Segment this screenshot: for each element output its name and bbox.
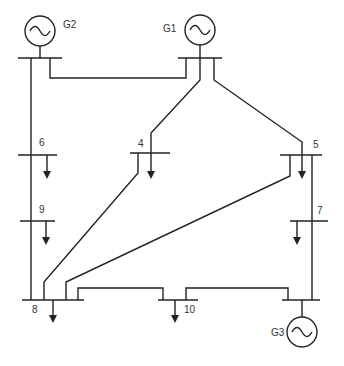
label-bus-7: 7 (317, 206, 323, 216)
label-g3: G3 (271, 328, 284, 338)
load-arrow-icon (147, 171, 155, 179)
load-arrow-icon (293, 237, 301, 245)
load-arrow-icon (298, 171, 306, 179)
line-bus4-bus8 (44, 153, 138, 300)
load-arrow-icon (42, 237, 50, 245)
load-arrow-icon (49, 315, 57, 323)
generator-g3 (287, 300, 317, 347)
label-bus-8: 8 (32, 305, 38, 315)
label-bus-5: 5 (313, 140, 319, 150)
one-line-diagram (0, 0, 344, 366)
label-bus-6: 6 (39, 138, 45, 148)
sine-wave-icon (292, 328, 312, 337)
label-bus-4: 4 (138, 139, 144, 149)
label-bus-9: 9 (39, 205, 45, 215)
line-g1-bus5 (214, 58, 302, 155)
sine-wave-icon (190, 26, 210, 35)
label-bus-10: 10 (184, 305, 195, 315)
label-g2: G2 (63, 20, 76, 30)
power-system-diagram: G2 G1 G3 6 4 5 9 7 8 10 (0, 0, 344, 366)
line-g1-bus4 (151, 58, 200, 153)
line-bus8-bus10 (78, 288, 163, 300)
label-g1: G1 (163, 24, 176, 34)
sine-wave-icon (30, 27, 50, 36)
load-arrow-icon (171, 315, 179, 323)
generator-g1 (185, 15, 215, 58)
load-arrow-icon (43, 171, 51, 179)
generator-g2 (25, 16, 55, 58)
line-g2-g1 (50, 58, 186, 78)
line-bus10-g3 (186, 288, 288, 300)
line-bus5-bus8 (66, 155, 290, 300)
